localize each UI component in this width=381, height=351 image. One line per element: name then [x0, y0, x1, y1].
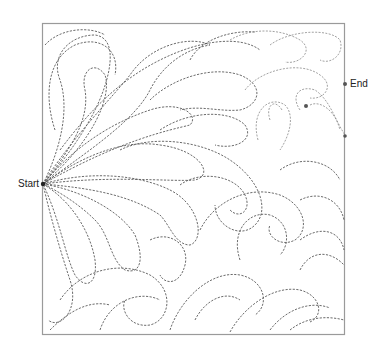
quilt-block	[0, 0, 381, 351]
start-marker	[41, 182, 45, 186]
interior-point-marker	[304, 104, 308, 108]
edge-marker	[343, 134, 347, 138]
end-marker	[343, 82, 347, 86]
end-label: End	[350, 79, 368, 89]
start-label: Start	[18, 179, 39, 189]
